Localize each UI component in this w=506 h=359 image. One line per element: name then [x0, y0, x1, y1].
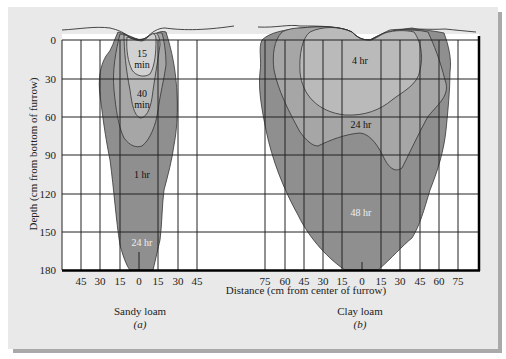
label-4hr: 4 hr	[352, 55, 369, 66]
x-tick: 0	[136, 275, 142, 287]
x-tick: 30	[173, 275, 185, 287]
x-tick: 15	[115, 275, 127, 287]
label-24hr-sandy: 24 hr	[132, 237, 154, 248]
y-tick-60: 60	[45, 111, 57, 123]
label-48hr: 48 hr	[351, 207, 373, 218]
label-1hr: 1 hr	[134, 169, 151, 180]
label-15min-unit: min	[134, 59, 150, 70]
x-axis-label: Distance (cm from center of furrow)	[186, 284, 426, 296]
y-tick-30: 30	[45, 73, 57, 85]
label-24hr-clay: 24 hr	[351, 119, 373, 130]
caption-soil-name: Clay loam	[320, 305, 400, 318]
caption-letter: (b)	[320, 318, 400, 331]
y-tick-150: 150	[40, 226, 57, 238]
label-40min-num: 40	[137, 88, 147, 99]
caption-soil-name: Sandy loam	[100, 305, 180, 318]
y-tick-90: 90	[45, 149, 57, 161]
x-tick: 75	[453, 275, 465, 287]
y-tick-120: 120	[40, 188, 57, 200]
x-tick: 30	[95, 275, 107, 287]
x-tick: 45	[76, 275, 88, 287]
y-tick-labels: 0 30 60 90 120 150 180	[40, 34, 57, 276]
label-15min-num: 15	[137, 48, 147, 59]
x-tick: 60	[434, 275, 446, 287]
y-tick-180: 180	[40, 264, 57, 276]
caption-letter: (a)	[100, 318, 180, 331]
caption-sandy-loam: Sandy loam (a)	[100, 305, 180, 331]
caption-clay-loam: Clay loam (b)	[320, 305, 400, 331]
x-tick: 15	[153, 275, 165, 287]
y-axis-label: Depth (cm from bottom of furrow)	[27, 64, 39, 244]
label-40min-unit: min	[134, 99, 150, 110]
y-tick-0: 0	[51, 34, 57, 46]
sandy-x-tick-labels: 45 30 15 0 15 30 45	[76, 275, 204, 287]
infiltration-diagram: 0 30 60 90 120 150 180 45 30 15 0 15 30 …	[0, 0, 506, 359]
